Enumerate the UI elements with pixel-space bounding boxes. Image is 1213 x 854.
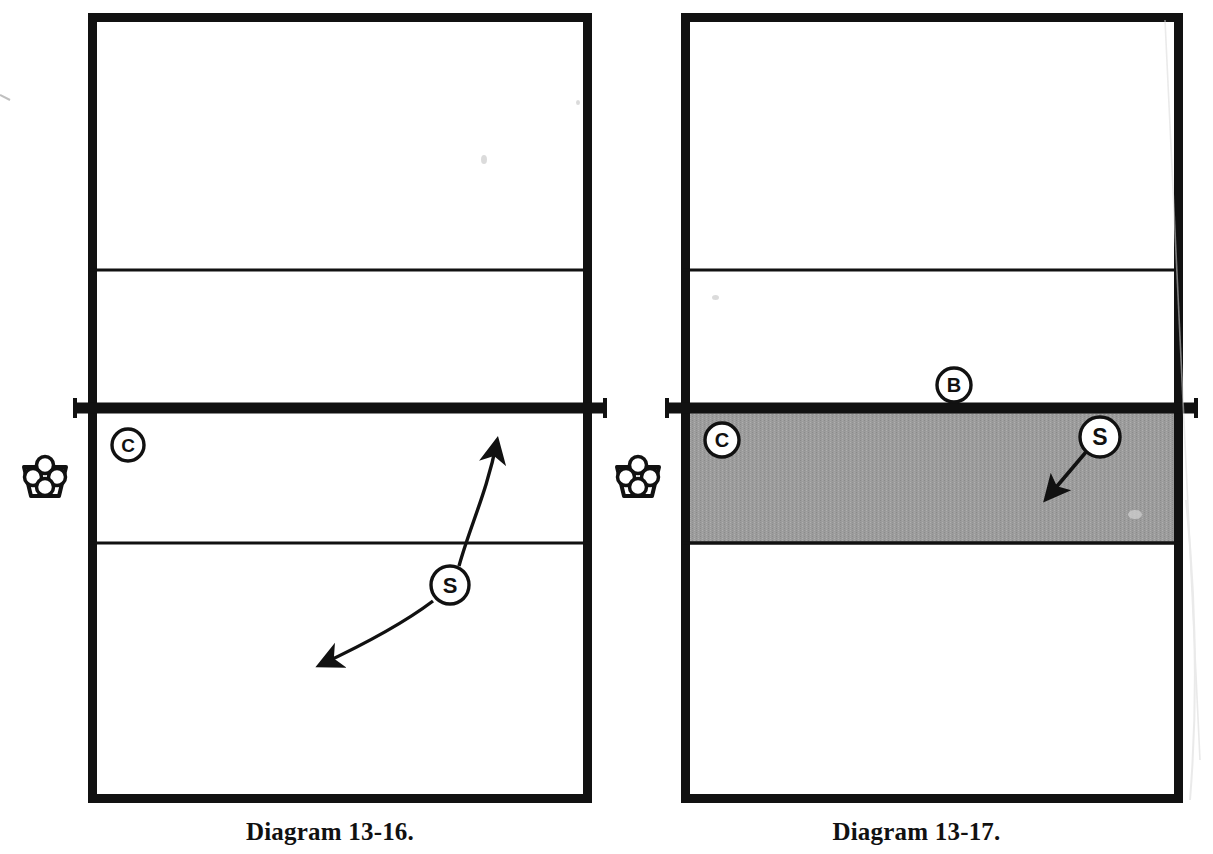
marker-blocker-right-label: B [947, 374, 961, 396]
marker-setter-left[interactable]: S [431, 566, 469, 604]
marker-setter-right-label: S [1092, 424, 1107, 450]
ball-cart-icon [24, 457, 66, 497]
diagram-13-16-group: C S [24, 18, 607, 799]
marker-coach-right[interactable]: C [705, 423, 739, 457]
marker-setter-left-label: S [443, 573, 458, 598]
scan-speck [481, 155, 487, 164]
ball-cart-icon [617, 457, 659, 497]
diagram-stage: C S [0, 0, 1213, 854]
marker-coach-left-label: C [121, 435, 135, 456]
marker-coach-right-label: C [715, 429, 729, 451]
scan-speck [1128, 510, 1142, 519]
diagram-caption-left: Diagram 13-16. [0, 818, 660, 846]
marker-setter-right[interactable]: S [1080, 417, 1120, 457]
scan-speck [576, 100, 580, 105]
marker-coach-left[interactable]: C [112, 429, 144, 461]
volleyball-diagrams-canvas: C S [0, 0, 1213, 854]
scan-speck [712, 295, 719, 300]
diagram-13-17-group: B C S [617, 18, 1198, 799]
diagram-caption-right: Diagram 13-17. [620, 818, 1213, 846]
marker-blocker-right[interactable]: B [937, 368, 971, 402]
